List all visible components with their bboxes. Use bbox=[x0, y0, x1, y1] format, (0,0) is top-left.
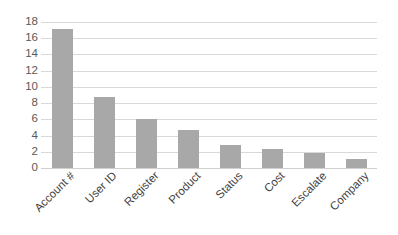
plot-area bbox=[41, 22, 377, 168]
bar bbox=[94, 97, 115, 168]
bar bbox=[304, 153, 325, 168]
y-axis-tick-label: 8 bbox=[0, 97, 38, 109]
x-axis-tick-label: Account # bbox=[33, 170, 77, 214]
bar bbox=[136, 119, 157, 168]
bar bbox=[178, 130, 199, 168]
bar-chart: 024681012141618 Account #User IDRegister… bbox=[0, 0, 398, 235]
x-axis-tick-label: Status bbox=[214, 170, 245, 201]
gridline bbox=[41, 103, 377, 104]
gridline bbox=[41, 38, 377, 39]
gridline bbox=[41, 71, 377, 72]
y-axis-tick-label: 2 bbox=[0, 146, 38, 158]
x-axis-tick-label: Register bbox=[123, 170, 161, 208]
x-axis-tick-label: Escalate bbox=[290, 170, 329, 209]
bar bbox=[220, 145, 241, 168]
gridline bbox=[41, 87, 377, 88]
x-axis-tick-label: Company bbox=[328, 170, 371, 213]
gridline bbox=[41, 136, 377, 137]
bar bbox=[346, 159, 367, 168]
bar bbox=[52, 29, 73, 169]
y-axis-tick-label: 16 bbox=[0, 32, 38, 44]
y-axis-tick-label: 14 bbox=[0, 49, 38, 61]
gridline bbox=[41, 152, 377, 153]
x-axis-tick-label: User ID bbox=[83, 170, 119, 206]
axis-baseline bbox=[41, 168, 377, 169]
y-axis-tick-label: 6 bbox=[0, 114, 38, 126]
gridline bbox=[41, 22, 377, 23]
gridline bbox=[41, 119, 377, 120]
x-axis-tick-label: Product bbox=[167, 170, 203, 206]
y-axis-tick-label: 0 bbox=[0, 162, 38, 174]
y-axis-tick-label: 12 bbox=[0, 65, 38, 77]
x-axis-tick-labels: Account #User IDRegisterProductStatusCos… bbox=[41, 170, 377, 232]
y-axis-tick-label: 4 bbox=[0, 130, 38, 142]
bar bbox=[262, 149, 283, 168]
x-axis-tick-label: Cost bbox=[262, 170, 287, 195]
gridline bbox=[41, 54, 377, 55]
y-axis-tick-label: 10 bbox=[0, 81, 38, 93]
y-axis-tick-label: 18 bbox=[0, 16, 38, 28]
